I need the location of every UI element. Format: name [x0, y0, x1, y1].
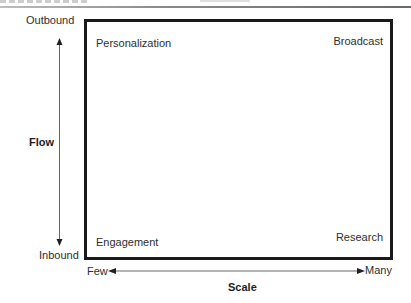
matrix-box: Personalization Broadcast Engagement Res…	[84, 19, 393, 260]
x-axis-right-label: Many	[365, 265, 392, 276]
quadrant-bottom-left-label: Engagement	[96, 237, 158, 248]
quadrant-bottom-right-label: Research	[336, 232, 383, 243]
y-axis-double-arrow-icon	[54, 38, 65, 246]
cropped-text-remnant	[200, 0, 250, 2]
x-axis-left-label: Few	[87, 266, 108, 277]
quadrant-top-right-label: Broadcast	[333, 36, 383, 47]
quadrant-top-left-label: Personalization	[96, 38, 171, 49]
x-axis-double-arrow-icon	[108, 266, 365, 276]
cropped-text-remnant	[0, 0, 90, 3]
y-axis-title: Flow	[29, 137, 54, 148]
y-axis-top-label: Outbound	[26, 15, 74, 26]
x-axis-title: Scale	[228, 282, 257, 293]
page-top-rule	[0, 6, 411, 8]
y-axis-bottom-label: Inbound	[39, 250, 79, 261]
